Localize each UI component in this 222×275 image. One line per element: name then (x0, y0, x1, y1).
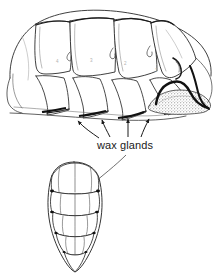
segment-number-1: 1 (155, 68, 158, 73)
gland-node-r1 (96, 190, 100, 193)
gland-node-r4 (85, 251, 88, 253)
tergite-plate-1 (151, 21, 196, 78)
figure-root: 4 3 2 1 (0, 0, 222, 275)
tergite-plate-2 (114, 19, 157, 79)
wax-gland-arrows (78, 119, 149, 138)
arrow-2 (102, 120, 110, 137)
gland-node-r3 (92, 232, 95, 234)
lateral-view-group: 4 3 2 1 (7, 10, 212, 120)
tergite-plate-3 (70, 18, 115, 76)
diagram-canvas: 4 3 2 1 (0, 0, 222, 275)
ventral-view-group (48, 162, 102, 272)
gland-node-l4 (63, 251, 66, 253)
tergite-plate-4 (35, 21, 71, 74)
posterior-lobe (7, 78, 22, 113)
internal-detail-1 (22, 36, 29, 80)
arrow-4 (141, 119, 149, 137)
posterior-lobe-inner (13, 74, 22, 108)
gland-node-l3 (54, 232, 57, 234)
ventral-seg2-left-suture (60, 194, 61, 215)
ventral-seg2-right-suture (89, 194, 90, 215)
arrow-1 (78, 121, 99, 138)
gland-node-l1 (50, 190, 54, 193)
gland-node-l2 (50, 211, 54, 214)
gland-node-r2 (95, 211, 99, 214)
wax-glands-label: wax glands (97, 139, 153, 151)
